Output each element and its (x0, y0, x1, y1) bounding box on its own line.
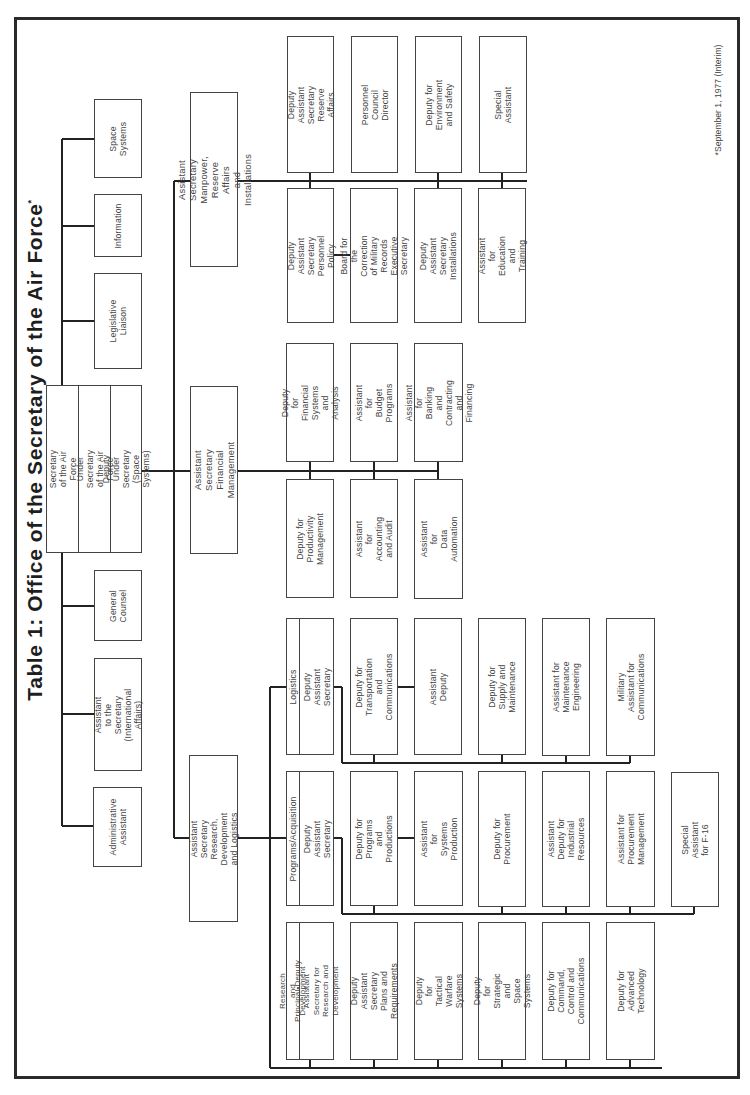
box-label: Deputy Assistant Secretary Reserve Affai… (286, 85, 336, 124)
box-label: Assistant Secretary Research, Developmen… (189, 812, 239, 865)
box-label: Military Assistant for Communications (616, 654, 646, 721)
box-transportation-communications: Deputy for Transportation and Communicat… (350, 618, 398, 755)
box-budget-programs: Assistant for Budget Programs (350, 343, 398, 462)
box-assistant-deputy: Assistant Deputy (414, 618, 462, 755)
org-chart-page: Table 1: Office of the Secretary of the … (0, 0, 750, 1095)
box-asst-sec-financial: Assistant Secretary Financial Management (190, 386, 238, 554)
box-industrial-resources: Assistant Deputy for Industrial Resource… (542, 771, 590, 907)
box-label: Deputy for Financial Systems and Analysi… (280, 384, 340, 420)
box-label: Deputy for Environment and Safety (424, 79, 454, 129)
box-special-assistant: Special Assistant (479, 36, 527, 173)
box-personnel-policy: Deputy Assistant Secretary Personnel Pol… (287, 188, 334, 323)
box-label: Deputy for Programs and Productions (354, 815, 394, 863)
box-label: Assistant for Budget Programs (354, 383, 394, 422)
programs-tag: Programs/Acquisition (287, 772, 300, 905)
box-label: Logistics (288, 669, 298, 704)
box-environment-safety: Deputy for Environment and Safety (415, 36, 462, 173)
box-label: Deputy for Command, Control and Communic… (546, 958, 586, 1025)
box-label: Special Assistant (493, 86, 513, 123)
box-strategic-space: Deputy for Strategic and Space Systems (478, 922, 526, 1060)
box-programs-das: Programs/Acquisition Deputy Assistant Se… (286, 771, 334, 906)
box-label: Assistant for Education and Training (477, 235, 527, 275)
box-logistics-das: Logistics Deputy Assistant Secretary (286, 618, 334, 755)
box-label: Assistant for Systems Production (419, 817, 459, 860)
box-installations: Deputy Assistant Secretary Installations (414, 188, 462, 323)
box-dep-reserve-affairs: Deputy Assistant Secretary Reserve Affai… (287, 36, 334, 173)
box-secretariat: Secretary of the Air Force Under Secreta… (46, 385, 142, 553)
box-label: Deputy for Transportation and Communicat… (354, 653, 394, 720)
box-label: Assistant for Procurement Management (616, 813, 646, 865)
box-label: Assistant Deputy (428, 668, 448, 705)
box-label: Legislative Liaison (108, 300, 128, 343)
box-label: Deputy for Strategic and Space Systems (472, 973, 532, 1009)
box-label: Assistant Secretary Manpower, Reserve Af… (176, 153, 253, 205)
box-space-systems: Space Systems (94, 99, 142, 178)
box-data-automation: Assistant for Data Automation (414, 479, 463, 599)
box-programs-productions: Deputy for Programs and Productions (350, 771, 398, 906)
box-label: Deputy Assistant Secretary (302, 667, 332, 706)
box-label: Assistant to the Secretary (Internationa… (93, 688, 143, 741)
box-banking-contracting: Assistant for Banking and Contracting an… (414, 343, 463, 462)
box-systems-production: Assistant for Systems Production (414, 771, 463, 906)
box-label: Space Systems (108, 121, 128, 155)
box-procurement-management: Assistant for Procurement Management (606, 771, 655, 907)
box-advanced-technology: Deputy for Advanced Technology (606, 922, 655, 1060)
box-label: Deputy Assistant Secretary Plans and Req… (349, 963, 399, 1019)
box-procurement: Deputy for Procurement (478, 771, 526, 907)
box-label: General Counsel (108, 589, 128, 622)
box-label: Programs/Acquisition (288, 796, 298, 881)
box-label: Deputy for Supply and Maintenance (487, 661, 517, 712)
programs-head: Deputy Assistant Secretary (300, 772, 333, 905)
box-legislative-liaison: Legislative Liaison (94, 273, 142, 369)
box-label: Deputy Assistant Secretary Installations (418, 232, 458, 280)
box-deputy-under-secretary: Deputy Under Secretary (Space Systems) (111, 386, 141, 552)
box-label: Assistant for Data Automation (419, 516, 459, 561)
box-research-pdas: Research and Development Principal•Deput… (286, 922, 334, 1060)
box-plans-requirements: Deputy Assistant Secretary Plans and Req… (350, 922, 398, 1060)
box-label: Information (113, 203, 123, 248)
box-supply-maintenance: Deputy for Supply and Maintenance (478, 618, 526, 755)
box-label: Deputy for Advanced Technology (616, 968, 646, 1013)
box-command-control: Deputy for Command, Control and Communic… (542, 922, 590, 1060)
box-productivity-management: Deputy for Productivity Management (286, 479, 334, 598)
box-label: Assistant for Banking and Contracting an… (404, 379, 474, 425)
box-general-counsel: General Counsel (94, 570, 142, 641)
box-financial-systems: Deputy for Financial Systems and Analysi… (286, 343, 334, 462)
box-label: Special Assistant for F-16 (680, 821, 710, 858)
box-label: Assistant Deputy for Industrial Resource… (546, 818, 586, 861)
box-label: Assistant for Maintenance Engineering (551, 661, 581, 712)
box-label: Administrative Assistant (108, 799, 128, 856)
box-label: Deputy Assistant Secretary Personnel Pol… (286, 235, 336, 276)
box-tactical-warfare: Deputy for Tactical Warfare Systems (414, 922, 463, 1060)
box-accounting-audit: Assistant for Accounting and Audit (350, 479, 398, 598)
box-education-training: Assistant for Education and Training (478, 188, 526, 323)
box-maintenance-engineering: Assistant for Maintenance Engineering (542, 618, 590, 756)
box-label: Board for the Correction of Military Rec… (339, 235, 409, 277)
box-international-affairs: Assistant to the Secretary (Internationa… (94, 658, 142, 771)
research-head: Principal•Deputy Assistant Secretary for… (300, 923, 333, 1059)
logistics-tag: Logistics (287, 619, 300, 754)
box-correction-military-records: Board for the Correction of Military Rec… (350, 188, 398, 323)
box-administrative-assistant: Administrative Assistant (93, 787, 142, 867)
box-label: Principal•Deputy Assistant Secretary for… (293, 960, 340, 1022)
box-label: Secretary of the Air Force (48, 450, 78, 489)
box-label: Personnel Council Director (360, 84, 390, 125)
box-label: Assistant Secretary Financial Management (192, 442, 236, 499)
box-label: Deputy Under Secretary (Space Systems) (101, 450, 151, 489)
box-label: Deputy Assistant Secretary (302, 819, 332, 858)
box-label: Deputy for Productivity Management (295, 512, 325, 564)
box-asst-sec-manpower: Assistant Secretary Manpower, Reserve Af… (190, 92, 238, 267)
box-information: Information (94, 194, 142, 257)
box-personnel-council: Personnel Council Director (351, 36, 398, 173)
box-special-assistant-f16: Special Assistant for F-16 (671, 772, 719, 907)
box-label: Deputy for Procurement (492, 813, 512, 864)
logistics-head: Deputy Assistant Secretary (300, 619, 333, 754)
box-label: Deputy for Tactical Warfare Systems (414, 974, 464, 1008)
box-label: Assistant for Accounting and Audit (354, 516, 394, 561)
box-military-assistant-communications: Military Assistant for Communications (606, 618, 655, 756)
box-asst-sec-rdl: Assistant Secretary Research, Developmen… (189, 755, 238, 922)
